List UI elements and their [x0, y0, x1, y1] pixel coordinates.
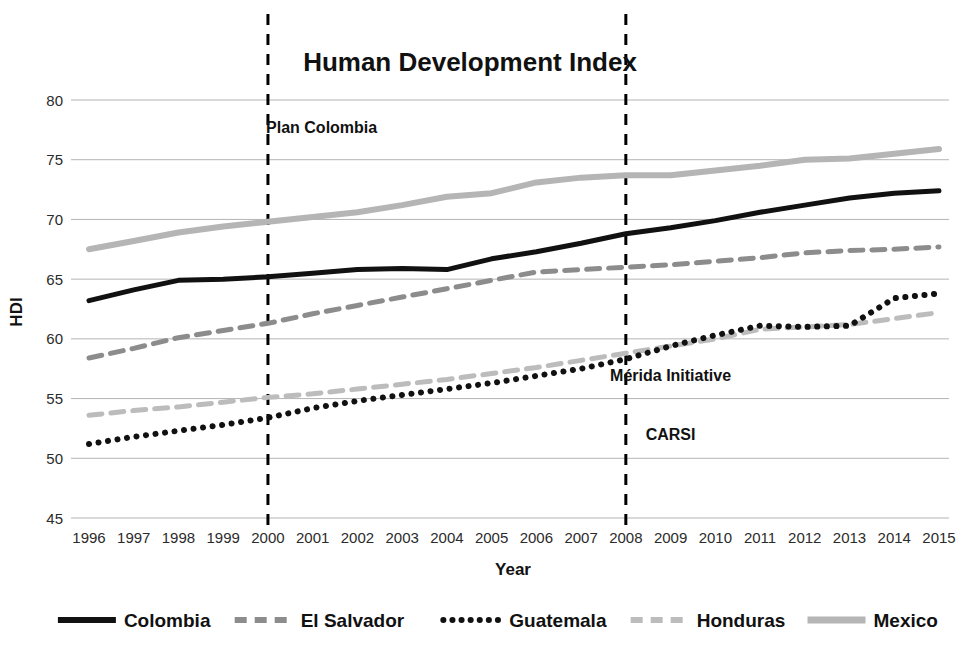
chart-title: Human Development Index	[303, 47, 637, 77]
x-tick-label-2011: 2011	[744, 529, 776, 546]
x-axis-title: Year	[495, 560, 531, 579]
x-tick-label-2010: 2010	[699, 529, 732, 546]
x-tick-label-2005: 2005	[475, 529, 508, 546]
x-tick-label-2015: 2015	[922, 529, 955, 546]
legend-label-el-salvador: El Salvador	[301, 610, 405, 631]
y-tick-label-50: 50	[46, 450, 63, 467]
y-tick-label-55: 55	[46, 390, 63, 407]
legend-label-honduras: Honduras	[697, 610, 786, 631]
y-tick-label-45: 45	[46, 510, 63, 527]
annotation-m-rida-initiative: Mérida Initiative	[610, 367, 731, 384]
chart-canvas: 4550556065707580 19961997199819992000200…	[0, 0, 979, 656]
hdi-line-chart: 4550556065707580 19961997199819992000200…	[0, 0, 979, 656]
x-tick-label-1996: 1996	[72, 529, 105, 546]
legend-label-mexico: Mexico	[874, 610, 938, 631]
annotation-carsi: CARSI	[646, 426, 696, 443]
x-tick-label-1999: 1999	[207, 529, 240, 546]
y-tick-label-75: 75	[46, 151, 63, 168]
x-tick-label-2002: 2002	[341, 529, 374, 546]
x-tick-label-2003: 2003	[385, 529, 418, 546]
x-tick-label-1998: 1998	[162, 529, 195, 546]
legend-label-colombia: Colombia	[124, 610, 211, 631]
legend-label-guatemala: Guatemala	[509, 610, 607, 631]
x-tick-label-2012: 2012	[788, 529, 821, 546]
x-tick-label-2013: 2013	[833, 529, 866, 546]
x-tick-label-1997: 1997	[117, 529, 150, 546]
x-tick-label-2014: 2014	[878, 529, 911, 546]
chart-background	[0, 0, 979, 656]
y-tick-label-80: 80	[46, 92, 63, 109]
x-tick-label-2009: 2009	[654, 529, 687, 546]
x-tick-label-2001: 2001	[296, 529, 329, 546]
x-tick-label-2008: 2008	[609, 529, 642, 546]
y-tick-label-70: 70	[46, 211, 63, 228]
x-tick-label-2000: 2000	[251, 529, 284, 546]
x-tick-label-2006: 2006	[520, 529, 553, 546]
x-tick-label-2007: 2007	[564, 529, 597, 546]
x-tick-label-2004: 2004	[430, 529, 463, 546]
y-tick-label-65: 65	[46, 271, 63, 288]
y-tick-label-60: 60	[46, 330, 63, 347]
annotation-plan-colombia: Plan Colombia	[266, 119, 377, 136]
y-axis-title: HDI	[7, 297, 26, 326]
